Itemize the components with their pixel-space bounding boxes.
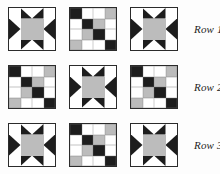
patch-block (69, 7, 117, 51)
corner-square (9, 124, 21, 135)
patch-cell-dark (9, 66, 21, 77)
quilt-row: Row 1 (0, 0, 220, 58)
patch-cell-dark (105, 156, 117, 167)
corner-square (9, 156, 21, 167)
patch-cell-white (105, 29, 117, 40)
patch-cell-white (143, 66, 155, 77)
patch-block-grid (70, 8, 116, 50)
patch-cell-white (32, 98, 44, 109)
corner-square (131, 8, 143, 19)
patch-cell-white (70, 19, 82, 30)
patch-cell-dark (154, 87, 166, 98)
patch-cell-gray (9, 98, 21, 109)
patch-cell-dark (44, 98, 56, 109)
patch-cell-dark (70, 124, 82, 135)
corner-square (9, 40, 21, 51)
star-center-square (21, 19, 44, 40)
patch-cell-white (9, 77, 21, 88)
patch-cell-white (131, 77, 143, 88)
patch-cell-white (82, 124, 94, 135)
star-block (130, 123, 178, 167)
patch-block (130, 65, 178, 109)
star-point-bottom (21, 156, 44, 167)
patch-cell-white (131, 87, 143, 98)
patch-cell-white (82, 40, 94, 51)
star-point-top (21, 124, 44, 135)
patch-cell-dark (105, 40, 117, 51)
star-point-top (143, 124, 166, 135)
corner-square (44, 156, 56, 167)
patch-cell-white (82, 8, 94, 19)
patch-cell-white (93, 124, 105, 135)
patch-block (8, 65, 56, 109)
patch-cell-dark (166, 98, 178, 109)
patch-cell-white (93, 156, 105, 167)
patch-cell-gray (82, 29, 94, 40)
star-point-right (44, 135, 56, 156)
quilt-row: Row 2 (0, 58, 220, 116)
corner-square (44, 124, 56, 135)
corner-square (70, 66, 82, 77)
patch-cell-gray (32, 77, 44, 88)
star-point-bottom (143, 156, 166, 167)
patch-cell-white (44, 77, 56, 88)
star-center-square (82, 77, 105, 98)
star-block-grid (70, 66, 116, 108)
patch-cell-white (154, 66, 166, 77)
corner-square (166, 40, 178, 51)
star-block-grid (131, 124, 177, 166)
patch-cell-dark (82, 19, 94, 30)
star-point-top (82, 66, 105, 77)
star-block-grid (9, 124, 55, 166)
star-point-top (143, 8, 166, 19)
patch-cell-white (105, 19, 117, 30)
corner-square (166, 8, 178, 19)
patch-cell-dark (93, 145, 105, 156)
corner-square (44, 40, 56, 51)
patch-cell-white (70, 145, 82, 156)
quilt-layout-figure: Row 1Row 2Row 3 (0, 0, 220, 174)
star-block-grid (9, 8, 55, 50)
patch-cell-dark (143, 77, 155, 88)
patch-cell-gray (93, 135, 105, 146)
corner-square (105, 66, 117, 77)
patch-cell-gray (21, 87, 33, 98)
star-point-left (131, 19, 143, 40)
patch-cell-gray (154, 77, 166, 88)
corner-square (166, 156, 178, 167)
patch-cell-dark (82, 135, 94, 146)
corner-square (44, 8, 56, 19)
patch-cell-white (105, 135, 117, 146)
patch-cell-gray (93, 19, 105, 30)
star-block (130, 7, 178, 51)
patch-cell-white (44, 87, 56, 98)
patch-cell-white (70, 29, 82, 40)
star-center-square (143, 19, 166, 40)
corner-square (131, 40, 143, 51)
patch-cell-dark (70, 8, 82, 19)
star-point-left (9, 19, 21, 40)
patch-cell-gray (70, 40, 82, 51)
patch-cell-dark (93, 29, 105, 40)
patch-cell-white (21, 66, 33, 77)
star-point-left (131, 135, 143, 156)
star-point-right (166, 135, 178, 156)
star-point-left (9, 135, 21, 156)
patch-cell-white (70, 135, 82, 146)
patch-block-grid (131, 66, 177, 108)
patch-block (69, 123, 117, 167)
patch-cell-gray (82, 145, 94, 156)
star-point-bottom (21, 40, 44, 51)
star-block (8, 7, 56, 51)
star-center-square (143, 135, 166, 156)
patch-cell-white (32, 66, 44, 77)
patch-cell-gray (143, 87, 155, 98)
corner-square (105, 98, 117, 109)
star-block (8, 123, 56, 167)
patch-cell-gray (166, 66, 178, 77)
patch-block-grid (9, 66, 55, 108)
patch-cell-dark (32, 87, 44, 98)
corner-square (131, 156, 143, 167)
quilt-row: Row 3 (0, 116, 220, 174)
star-block (69, 65, 117, 109)
